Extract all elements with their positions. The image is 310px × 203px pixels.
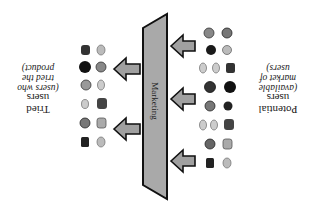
potential-users-title-line2: users: [250, 92, 306, 104]
funnel-label: Marketing: [150, 76, 160, 126]
potential-users-subtitle-1: (available: [250, 82, 306, 92]
user-face-icon: [200, 120, 207, 130]
user-face-icon: [211, 120, 218, 130]
potential-users-label: Potential users (available market of use…: [250, 62, 306, 115]
user-face-icon: [226, 63, 235, 73]
tried-users-label: Tried users (users who tried the product…: [10, 62, 66, 115]
user-face-icon: [97, 45, 105, 55]
tried-users-title: Tried: [10, 103, 66, 115]
potential-users-subtitle-2: market of: [250, 72, 306, 82]
tried-users-subtitle-1: (users who: [10, 82, 66, 92]
user-face-icon: [205, 101, 215, 111]
user-face-icon: [81, 45, 90, 55]
user-face-icon: [205, 139, 215, 149]
user-face-icon: [98, 80, 105, 90]
potential-users-title: Potential: [250, 103, 306, 115]
user-face-icon: [81, 137, 89, 147]
user-face-icon: [79, 61, 91, 73]
user-face-icon: [204, 28, 214, 38]
user-face-icon: [205, 82, 216, 93]
user-face-icon: [213, 63, 220, 73]
arrow-left-icon: [114, 58, 140, 80]
user-face-icon: [223, 139, 232, 149]
marketing-funnel-diagram: Marketing Potential users (available mar…: [0, 0, 310, 203]
output-arrows: [114, 58, 140, 140]
user-face-icon: [206, 158, 214, 168]
user-face-icon: [97, 137, 105, 147]
arrow-left-icon: [114, 118, 140, 140]
tried-users-subtitle-2: tried the: [10, 72, 66, 82]
potential-user-faces: [200, 28, 237, 168]
user-face-icon: [96, 62, 106, 72]
user-face-icon: [222, 28, 232, 38]
user-face-icon: [82, 100, 89, 109]
tried-user-faces: [79, 45, 107, 147]
user-face-icon: [206, 45, 216, 55]
user-face-icon: [200, 63, 207, 73]
user-face-icon: [224, 119, 234, 130]
user-face-icon: [80, 118, 90, 128]
arrow-left-icon: [171, 35, 195, 57]
user-face-icon: [223, 158, 231, 168]
potential-users-subtitle-3: users): [250, 62, 306, 72]
arrow-left-icon: [171, 88, 195, 110]
user-face-icon: [97, 118, 106, 128]
arrow-left-icon: [171, 150, 195, 172]
user-face-icon: [224, 102, 233, 111]
tried-users-subtitle-3: product): [10, 62, 66, 72]
user-face-icon: [223, 46, 232, 55]
user-face-icon: [81, 80, 91, 90]
input-arrows: [171, 35, 195, 172]
tried-users-title-line2: users: [10, 92, 66, 104]
user-face-icon: [97, 98, 107, 109]
user-face-icon: [224, 81, 236, 93]
